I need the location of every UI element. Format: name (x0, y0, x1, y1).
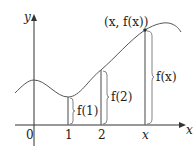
label-fx: f(x) (156, 70, 177, 84)
label-f1: f(1) (77, 104, 98, 118)
x-axis-label: x (186, 123, 193, 137)
tick-x: x (142, 128, 149, 142)
x-axis-arrow-icon (179, 122, 186, 128)
y-axis-arrow-icon (31, 14, 37, 21)
tick-0: 0 (26, 128, 34, 142)
tick-2: 2 (98, 128, 106, 142)
brace-f1 (70, 98, 75, 124)
function-curve (15, 23, 181, 97)
point-label: (x, f(x)) (104, 15, 148, 29)
label-f2: f(2) (111, 90, 132, 104)
tick-1: 1 (65, 128, 73, 142)
function-diagram: y x 0 1 2 x f(1) f(2) f(x) (x, f(x)) (0, 0, 194, 152)
y-axis-label: y (23, 10, 31, 24)
brace-fx (147, 31, 154, 124)
brace-f2 (103, 71, 109, 124)
